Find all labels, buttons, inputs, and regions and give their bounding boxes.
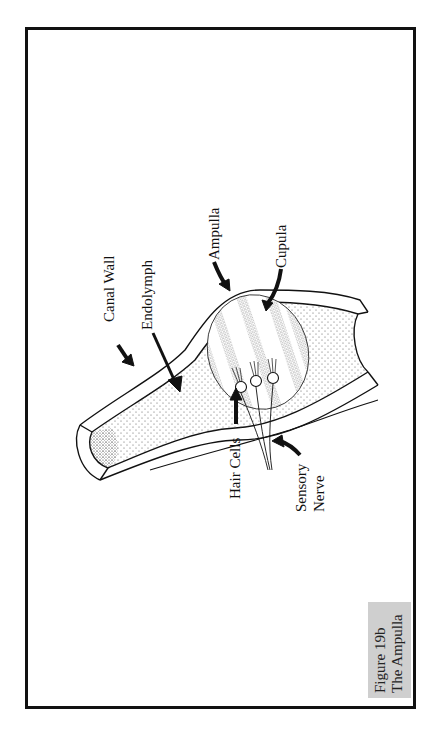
label-hair-cells: Hair Cells — [228, 438, 243, 499]
label-sensory-nerve-line2: Nerve — [312, 475, 327, 512]
label-sensory-nerve-line1: Sensory — [294, 464, 309, 512]
figure-caption: Figure 19b The Ampulla — [372, 614, 406, 693]
endolymph-dense-end — [90, 428, 118, 468]
label-endolymph: Endolymph — [140, 260, 155, 330]
label-ampulla: Ampulla — [207, 208, 222, 261]
figure-number: Figure 19b — [372, 614, 389, 693]
cupula-arrow — [268, 269, 281, 303]
figure-caption-box: Figure 19b The Ampulla — [368, 602, 411, 698]
label-canal-wall: Canal Wall — [102, 256, 117, 322]
endolymph-arrow — [153, 333, 176, 384]
figure-title: The Ampulla — [389, 614, 406, 693]
label-cupula: Cupula — [274, 225, 289, 268]
